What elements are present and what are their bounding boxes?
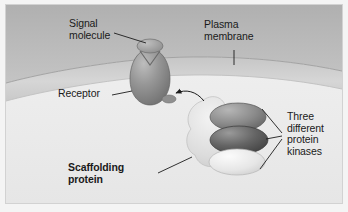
label-signal-molecule-line1: Signal [69,18,110,30]
diagram-panel: Signal molecule Receptor Plasma membrane… [6,5,342,203]
receptor-foot [162,95,176,103]
label-scaffolding-protein-line1: Scaffolding [68,162,124,174]
label-plasma-membrane-line1: Plasma [204,19,253,31]
diagram-canvas [6,5,342,203]
label-plasma-membrane-line2: membrane [204,31,253,43]
label-protein-kinases-line1: Three [287,111,324,123]
label-receptor-text: Receptor [58,88,100,100]
label-protein-kinases-line3: protein [287,134,324,146]
label-scaffolding-protein-line2: protein [68,174,124,186]
label-signal-molecule-line2: molecule [69,30,110,42]
label-receptor: Receptor [58,88,100,100]
protein-kinase-3 [209,149,265,175]
label-protein-kinases: Three different protein kinases [287,111,324,157]
label-protein-kinases-line4: kinases [287,146,324,158]
label-signal-molecule: Signal molecule [69,18,110,41]
label-scaffolding-protein: Scaffolding protein [68,162,124,185]
label-plasma-membrane: Plasma membrane [204,19,253,42]
figure-root: Signal molecule Receptor Plasma membrane… [0,0,348,212]
